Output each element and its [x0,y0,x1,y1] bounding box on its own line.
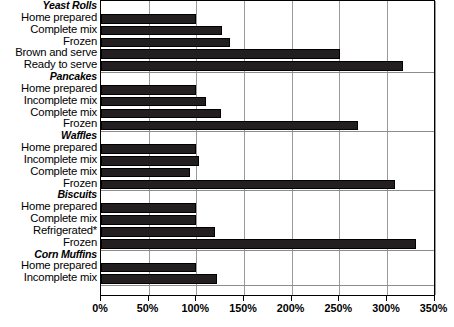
bar-pancakes-incomplete-mix [101,97,206,107]
category-label-incomplete-mix: Incomplete mix [0,272,100,284]
category-label-text: Home prepared [0,12,97,24]
x-tick-label-50: 50% [137,302,159,314]
gridline-350 [435,1,436,295]
bar-pancakes-frozen [101,121,358,131]
gridline-200 [292,1,293,295]
bar-biscuits-refrigerated- [101,227,215,237]
x-tick-100 [195,296,196,301]
bar-biscuits-home-prepared [101,203,196,213]
gridline-300 [387,1,388,295]
bar-corn-muffins-home-prepared [101,263,196,273]
plot-area [100,0,435,296]
category-label-home-prepared: Home prepared [0,83,100,95]
bar-yeast-rolls-complete-mix [101,26,222,36]
bar-biscuits-complete-mix [101,215,196,225]
category-label-text: Complete mix [0,166,97,178]
group-separator [101,250,434,251]
group-separator [101,285,434,286]
gridline-150 [244,1,245,295]
category-label-text: Incomplete mix [0,272,97,284]
bar-waffles-home-prepared [101,144,196,154]
bar-biscuits-frozen [101,239,416,249]
group-separator [101,131,434,132]
bar-pancakes-home-prepared [101,85,196,95]
x-tick-label-150: 150% [229,302,257,314]
x-tick-label-350: 350% [420,302,448,314]
category-label-text: Frozen [0,237,97,249]
category-label-text: Complete mix [0,24,97,36]
category-label-frozen: Frozen [0,237,100,249]
category-label-incomplete-mix: Incomplete mix [0,95,100,107]
category-label-complete-mix: Complete mix [0,166,100,178]
group-separator [101,72,434,73]
gridline-250 [339,1,340,295]
group-separator [101,190,434,191]
bar-corn-muffins-incomplete-mix [101,274,217,284]
x-tick-0 [100,296,101,301]
x-tick-350 [434,296,435,301]
x-tick-label-0: 0% [92,302,108,314]
x-tick-label-200: 200% [277,302,305,314]
x-tick-250 [338,296,339,301]
bar-yeast-rolls-brown-and-serve [101,49,340,59]
x-tick-300 [386,296,387,301]
bar-yeast-rolls-home-prepared [101,14,196,24]
bar-yeast-rolls-ready-to-serve [101,61,403,71]
category-label-refrigerated-: Refrigerated* [0,225,100,237]
bar-pancakes-complete-mix [101,109,221,119]
category-label-column: Yeast RollsHome preparedComplete mixFroz… [0,0,100,296]
x-tick-50 [148,296,149,301]
category-label-text: Home prepared [0,83,97,95]
x-tick-200 [291,296,292,301]
category-label-text: Incomplete mix [0,95,97,107]
x-tick-label-300: 300% [372,302,400,314]
category-label-incomplete-mix: Incomplete mix [0,154,100,166]
x-tick-label-250: 250% [324,302,352,314]
bar-yeast-rolls-frozen [101,38,230,48]
bar-waffles-incomplete-mix [101,156,199,166]
x-axis: 0%50%100%150%200%250%300%350% [100,296,435,327]
category-label-complete-mix: Complete mix [0,24,100,36]
bar-waffles-frozen [101,180,395,190]
category-label-text: Incomplete mix [0,154,97,166]
x-tick-label-100: 100% [182,302,210,314]
category-label-home-prepared: Home prepared [0,12,100,24]
bar-chart: Yeast RollsHome preparedComplete mixFroz… [0,0,454,327]
x-tick-150 [243,296,244,301]
bar-waffles-complete-mix [101,168,190,178]
